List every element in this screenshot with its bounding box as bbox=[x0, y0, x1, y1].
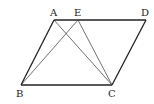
label-c: C bbox=[108, 88, 116, 99]
inner-segments bbox=[21, 20, 112, 85]
edge-cd bbox=[112, 20, 146, 85]
label-a: A bbox=[49, 7, 58, 18]
geometry-diagram: A E D B C bbox=[0, 0, 154, 104]
label-d: D bbox=[141, 7, 149, 18]
parallelogram-edges bbox=[21, 20, 146, 85]
label-e: E bbox=[74, 7, 81, 18]
label-b: B bbox=[16, 88, 23, 99]
